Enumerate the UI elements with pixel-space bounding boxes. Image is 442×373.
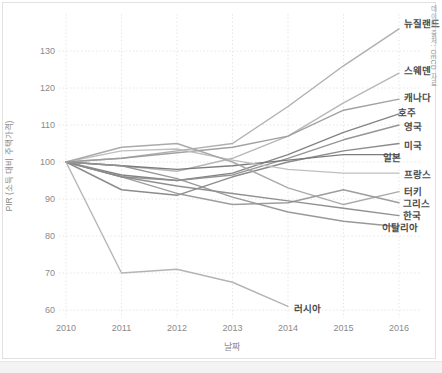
series-label-canada: 캐나다 bbox=[404, 92, 431, 103]
y-tick-label: 110 bbox=[41, 120, 55, 130]
x-tick-label: 2010 bbox=[56, 323, 76, 333]
page-bottom-strip bbox=[0, 361, 442, 373]
y-tick-label: 70 bbox=[45, 268, 55, 278]
series-line-italy bbox=[66, 162, 399, 227]
y-axis-title: PIR (소득 대비 주택가격) bbox=[2, 101, 14, 231]
y-tick-label: 100 bbox=[40, 157, 55, 167]
series-label-australia: 호주 bbox=[398, 107, 416, 118]
series-label-korea: 한국 bbox=[403, 210, 421, 221]
pir-line-chart: 6070809010011012013020102011201220132014… bbox=[0, 0, 442, 373]
series-label-uk: 영국 bbox=[404, 121, 422, 132]
x-tick-label: 2011 bbox=[112, 323, 131, 333]
series-label-sweden: 스웨덴 bbox=[404, 65, 431, 76]
x-tick-label: 2015 bbox=[333, 323, 353, 333]
source-note: 데이터 출처: OECD 자료 bbox=[428, 5, 438, 88]
series-label-japan: 일본 bbox=[383, 152, 401, 163]
series-label-italy: 이탈리아 bbox=[382, 222, 418, 233]
x-tick-label: 2012 bbox=[167, 323, 187, 333]
y-tick-label: 60 bbox=[45, 305, 55, 315]
x-tick-label: 2016 bbox=[389, 323, 409, 333]
x-tick-label: 2013 bbox=[222, 323, 242, 333]
x-tick-label: 2014 bbox=[278, 323, 298, 333]
y-tick-label: 130 bbox=[40, 46, 55, 56]
series-label-france: 프랑스 bbox=[404, 169, 431, 180]
series-label-greece: 그리스 bbox=[403, 198, 430, 209]
x-axis-title: 날짜 bbox=[167, 340, 297, 353]
y-tick-label: 90 bbox=[45, 194, 55, 204]
series-label-russia: 러시아 bbox=[294, 303, 321, 314]
series-line-greece bbox=[66, 162, 399, 205]
y-tick-label: 120 bbox=[40, 83, 55, 93]
y-tick-label: 80 bbox=[45, 231, 55, 241]
series-label-usa: 미국 bbox=[404, 140, 422, 151]
series-label-turkey: 터키 bbox=[404, 186, 422, 197]
